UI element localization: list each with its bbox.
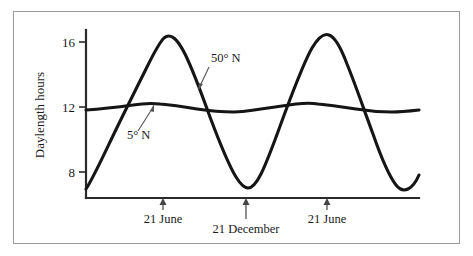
- y-tick-label-8: 8: [69, 165, 76, 180]
- x-annotation-label-june-2: 21 June: [308, 212, 347, 226]
- x-annotation-label-june-1: 21 June: [144, 212, 183, 226]
- callout-line-50n: [200, 67, 209, 86]
- series-line-5n: [86, 103, 419, 112]
- y-tick-label-16: 16: [62, 35, 76, 50]
- x-annotation-label-december: 21 December: [213, 222, 281, 236]
- daylength-chart: 16 12 8 Daylength hours 50° N 5° N 21 Ju…: [0, 0, 473, 256]
- y-axis-title: Daylength hours: [32, 72, 47, 158]
- callout-arrow-5n: [150, 104, 154, 112]
- y-tick-label-12: 12: [62, 100, 75, 115]
- series-label-50n: 50° N: [211, 51, 241, 65]
